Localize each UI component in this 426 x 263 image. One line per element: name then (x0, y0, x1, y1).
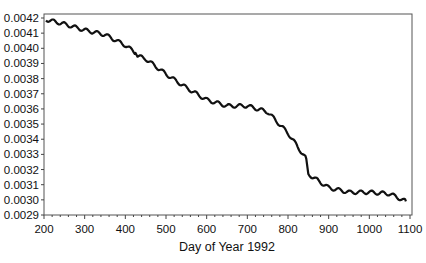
y-tick-label: 0.0038 (4, 73, 39, 85)
x-axis-title: Day of Year 1992 (179, 240, 275, 254)
x-tick-label: 800 (278, 223, 297, 235)
x-tick-label: 400 (116, 223, 135, 235)
y-tick-label: 0.0029 (4, 209, 39, 221)
x-tick-label: 1000 (357, 223, 383, 235)
x-tick-label: 500 (156, 223, 175, 235)
y-tick-label: 0.0035 (4, 118, 39, 130)
x-tick-label: 200 (34, 223, 53, 235)
y-tick-label: 0.0030 (4, 194, 39, 206)
x-tick-label: 300 (75, 223, 94, 235)
y-tick-label: 0.0034 (4, 133, 40, 145)
y-tick-label: 0.0032 (4, 164, 39, 176)
y-tick-label: 0.0036 (4, 103, 39, 115)
line-chart: 0.00290.00300.00310.00320.00330.00340.00… (0, 0, 426, 263)
data-line (46, 20, 406, 202)
y-tick-label: 0.0041 (4, 27, 39, 39)
y-tick-label: 0.0042 (4, 12, 39, 24)
y-axis: 0.00290.00300.00310.00320.00330.00340.00… (4, 12, 44, 221)
y-tick-label: 0.0037 (4, 88, 39, 100)
x-tick-label: 900 (319, 223, 338, 235)
plot-frame (44, 14, 412, 215)
y-tick-label: 0.0033 (4, 148, 39, 160)
x-tick-label: 1100 (398, 223, 423, 235)
plot-border (44, 14, 412, 215)
y-tick-label: 0.0040 (4, 42, 39, 54)
y-tick-label: 0.0031 (4, 179, 39, 191)
x-tick-label: 700 (238, 223, 257, 235)
x-axis: 20030040050060070080090010001100 (34, 215, 422, 235)
x-tick-label: 600 (197, 223, 216, 235)
y-tick-label: 0.0039 (4, 57, 39, 69)
